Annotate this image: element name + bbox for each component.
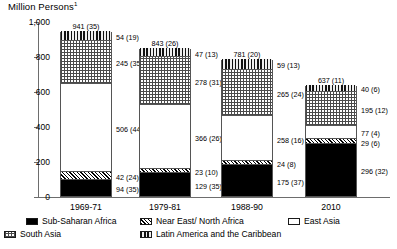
segment-value-label: 175 (37) xyxy=(277,177,304,186)
segment-value-label: 42 (24) xyxy=(116,172,139,181)
bar-1988-90[interactable] xyxy=(221,60,273,197)
segment-value-label: 195 (12) xyxy=(361,105,388,114)
legend-item-sub-saharan-africa[interactable]: Sub-Saharan Africa xyxy=(26,216,117,226)
legend-item-east-asia[interactable]: East Asia xyxy=(288,216,340,226)
y-axis-line xyxy=(38,22,39,197)
bar-segment-near-east-north-africa[interactable] xyxy=(61,172,111,179)
bar-segment-latin-america-and-the-caribbean[interactable] xyxy=(140,48,190,56)
legend-label: South Asia xyxy=(20,229,61,239)
chart-legend: Sub-Saharan AfricaNear East/ North Afric… xyxy=(0,214,397,248)
legend-item-latin-america-and-the-caribbean[interactable]: Latin America and the Caribbean xyxy=(140,229,281,239)
legend-label: Sub-Saharan Africa xyxy=(42,216,117,226)
bar-segment-east-asia[interactable] xyxy=(222,116,272,161)
legend-swatch-diagonal-hatch xyxy=(140,218,152,225)
y-axis-tick-label: 1,000 xyxy=(29,17,50,27)
y-axis-tick xyxy=(34,197,39,198)
plot-area: 02004006008001,000 94 (35)42 (24)506 (44… xyxy=(38,22,390,197)
y-axis-tick-label: 200 xyxy=(36,157,50,167)
segment-value-label: 40 (6) xyxy=(361,85,380,94)
segment-value-label: 47 (13) xyxy=(195,49,218,58)
legend-label: Near East/ North Africa xyxy=(156,216,244,226)
bar-segment-latin-america-and-the-caribbean[interactable] xyxy=(306,85,356,92)
y-axis-title-text: Million Persons xyxy=(8,1,74,12)
y-axis-tick-label: 400 xyxy=(36,122,50,132)
y-axis-tick-label: 600 xyxy=(36,87,50,97)
bar-1979-81[interactable] xyxy=(139,49,191,197)
bar-total-label: 637 (11) xyxy=(318,76,344,85)
y-axis-title-footnote: 1 xyxy=(74,1,77,7)
legend-label: East Asia xyxy=(304,216,340,226)
segment-value-label: 54 (19) xyxy=(116,33,139,42)
bar-segment-south-asia[interactable] xyxy=(306,92,356,126)
bar-segment-south-asia[interactable] xyxy=(222,70,272,116)
bar-segment-near-east-north-africa[interactable] xyxy=(140,169,190,173)
bar-segment-east-asia[interactable] xyxy=(140,105,190,169)
bar-segment-latin-america-and-the-caribbean[interactable] xyxy=(61,31,111,40)
chart-container: Million Persons1 02004006008001,000 94 (… xyxy=(0,0,397,249)
y-axis-tick-label: 800 xyxy=(36,52,50,62)
bar-segment-east-asia[interactable] xyxy=(306,126,356,139)
bar-segment-sub-saharan-africa[interactable] xyxy=(222,165,272,196)
segment-value-label: 258 (16) xyxy=(277,135,304,144)
segment-value-label: 59 (13) xyxy=(277,61,300,70)
bar-segment-east-asia[interactable] xyxy=(61,84,111,173)
segment-value-label: 366 (26) xyxy=(195,134,222,143)
y-axis-title: Million Persons1 xyxy=(8,1,77,12)
bar-total-label: 843 (26) xyxy=(152,39,179,48)
legend-swatch-vertical-stripe xyxy=(140,231,152,238)
x-axis-label-1988-90: 1988-90 xyxy=(231,202,263,212)
bar-total-label: 781 (20) xyxy=(234,50,261,59)
segment-value-label: 94 (35) xyxy=(116,184,139,193)
segment-value-label: 24 (8) xyxy=(277,160,296,169)
segment-value-label: 23 (10) xyxy=(195,168,218,177)
segment-value-label: 265 (24) xyxy=(277,89,304,98)
bar-segment-sub-saharan-africa[interactable] xyxy=(140,173,190,196)
x-axis-label-1969-71: 1969-71 xyxy=(70,202,102,212)
bar-total-label: 941 (35) xyxy=(73,22,100,31)
segment-value-label: 278 (31) xyxy=(195,78,222,87)
bar-segment-near-east-north-africa[interactable] xyxy=(306,139,356,144)
bar-segment-sub-saharan-africa[interactable] xyxy=(306,144,356,196)
legend-item-near-east-north-africa[interactable]: Near East/ North Africa xyxy=(140,216,244,226)
legend-item-south-asia[interactable]: South Asia xyxy=(4,229,61,239)
legend-swatch-solid-black xyxy=(26,218,38,225)
x-axis-line xyxy=(36,197,390,198)
x-axis-label-2010: 2010 xyxy=(321,202,340,212)
x-axis-label-1979-81: 1979-81 xyxy=(149,202,181,212)
segment-value-label: 29 (6) xyxy=(361,138,380,147)
legend-label: Latin America and the Caribbean xyxy=(156,229,281,239)
y-axis-tick-label: 0 xyxy=(45,192,50,202)
bar-segment-south-asia[interactable] xyxy=(140,57,190,106)
bar-2010[interactable] xyxy=(305,86,357,197)
legend-swatch-white xyxy=(288,218,300,225)
segment-value-label: 129 (35) xyxy=(195,181,222,190)
bar-1969-71[interactable] xyxy=(60,32,112,197)
segment-value-label: 77 (4) xyxy=(361,129,380,138)
legend-swatch-dotted xyxy=(4,231,16,238)
segment-value-label: 296 (32) xyxy=(361,167,388,176)
bar-segment-near-east-north-africa[interactable] xyxy=(222,161,272,165)
bar-segment-sub-saharan-africa[interactable] xyxy=(61,180,111,196)
bar-segment-latin-america-and-the-caribbean[interactable] xyxy=(222,59,272,69)
bar-segment-south-asia[interactable] xyxy=(61,41,111,84)
